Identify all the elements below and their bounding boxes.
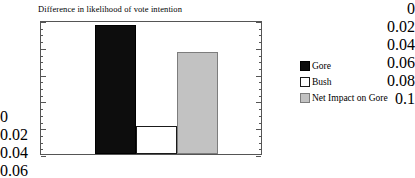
legend-swatch-icon — [300, 61, 310, 71]
legend-item-label: Bush — [312, 77, 332, 87]
left-axis-minor-tick — [41, 109, 43, 110]
chart-figure: Difference in likelihood of vote intenti… — [0, 0, 415, 178]
right-axis-minor-tick — [259, 123, 261, 124]
right-axis-minor-tick — [259, 143, 261, 144]
right-axis-major-tick — [256, 22, 261, 23]
right-axis-major-tick — [256, 129, 261, 130]
legend-item-bush[interactable]: Bush — [300, 74, 415, 90]
left-axis-minor-tick — [41, 149, 43, 150]
left-axis-minor-tick — [41, 116, 43, 117]
left-axis-major-tick — [41, 76, 46, 77]
bar-gore — [95, 25, 136, 154]
left-axis-minor-tick — [41, 56, 43, 57]
left-axis-minor-tick — [41, 62, 43, 63]
right-axis-minor-tick — [259, 89, 261, 90]
plot-area — [40, 21, 262, 155]
right-axis-minor-tick — [259, 82, 261, 83]
legend-swatch-icon — [300, 77, 310, 87]
left-axis-minor-tick — [41, 69, 43, 70]
right-axis-minor-tick — [259, 35, 261, 36]
right-axis-major-tick — [256, 102, 261, 103]
right-axis-minor-tick — [259, 56, 261, 57]
legend-item-gore[interactable]: Gore — [300, 58, 415, 74]
legend-item-net-impact-on-gore[interactable]: Net Impact on Gore — [300, 90, 415, 106]
right-axis-minor-tick — [259, 62, 261, 63]
left-axis-minor-tick — [41, 143, 43, 144]
left-axis-major-tick — [41, 129, 46, 130]
right-axis-major-tick — [256, 76, 261, 77]
right-axis-minor-tick — [259, 29, 261, 30]
left-axis-minor-tick — [41, 42, 43, 43]
right-axis-minor-tick — [259, 69, 261, 70]
chart-legend: GoreBushNet Impact on Gore — [300, 58, 415, 106]
left-axis-minor-tick — [41, 35, 43, 36]
left-axis-minor-tick — [41, 96, 43, 97]
right-axis-minor-tick — [259, 149, 261, 150]
bar-net-impact-on-gore — [177, 52, 218, 155]
right-axis-minor-tick — [259, 109, 261, 110]
right-axis-minor-tick — [259, 42, 261, 43]
bar-bush — [136, 126, 177, 154]
left-axis-minor-tick — [41, 82, 43, 83]
left-axis-minor-tick — [41, 29, 43, 30]
legend-item-label: Net Impact on Gore — [312, 93, 388, 103]
left-axis-minor-tick — [41, 89, 43, 90]
left-axis-major-tick — [41, 156, 46, 157]
chart-title: Difference in likelihood of vote intenti… — [38, 4, 182, 15]
right-y-axis-tick-label: 0.06 — [0, 162, 415, 178]
right-axis-minor-tick — [259, 116, 261, 117]
left-axis-minor-tick — [41, 136, 43, 137]
left-axis-major-tick — [41, 102, 46, 103]
left-axis-major-tick — [41, 49, 46, 50]
right-axis-minor-tick — [259, 96, 261, 97]
legend-swatch-icon — [300, 93, 310, 103]
right-axis-major-tick — [256, 49, 261, 50]
legend-item-label: Gore — [312, 61, 331, 71]
left-axis-minor-tick — [41, 123, 43, 124]
left-axis-major-tick — [41, 22, 46, 23]
right-axis-major-tick — [256, 156, 261, 157]
right-axis-minor-tick — [259, 136, 261, 137]
